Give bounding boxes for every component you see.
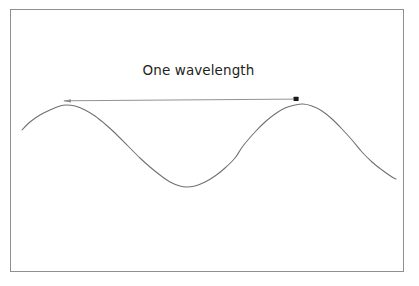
wavelength-diagram: One wavelength xyxy=(0,0,419,286)
crest-two-marker xyxy=(294,97,299,101)
sine-wave-curve xyxy=(22,104,396,187)
wave-drawing-canvas xyxy=(0,0,419,286)
arrow-shaft xyxy=(64,99,297,101)
one-wavelength-arrow xyxy=(63,97,299,103)
